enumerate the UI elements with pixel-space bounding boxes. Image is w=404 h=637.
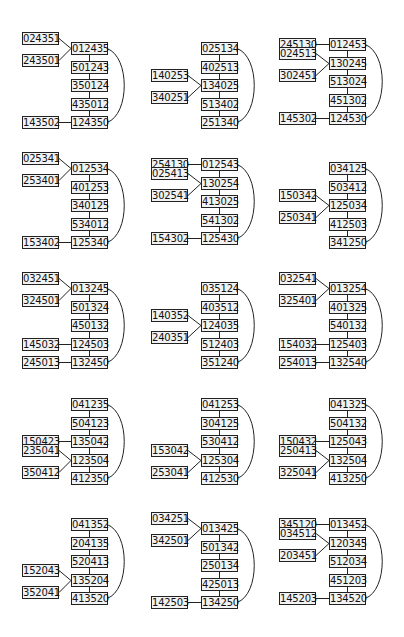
chain-node: 503412 [329, 181, 366, 194]
chain-node: 541302 [201, 214, 238, 227]
side-node: 154302 [151, 232, 188, 245]
side-node: 145302 [279, 112, 316, 125]
edge [188, 519, 201, 529]
side-node: 302451 [279, 69, 316, 82]
chain-node: 530412 [201, 435, 238, 448]
chain-node: 041235 [71, 398, 108, 411]
wrap-arc [107, 405, 124, 479]
chain-node: 540132 [329, 319, 366, 332]
wrap-arc [237, 165, 254, 239]
edge [316, 289, 329, 301]
side-node: 024351 [22, 32, 59, 45]
edge [316, 279, 329, 289]
chain-node: 401325 [329, 301, 366, 314]
edge [316, 534, 329, 544]
side-node: 024513 [279, 47, 316, 60]
edge [59, 571, 71, 581]
edge [188, 86, 201, 98]
edge [59, 169, 71, 181]
edge [316, 54, 329, 64]
side-node: 145032 [22, 338, 59, 351]
edge [59, 279, 71, 289]
side-node: 150342 [279, 189, 316, 202]
chain-node: 412350 [71, 472, 108, 485]
chain-node: 451302 [329, 94, 366, 107]
chain-node: 520413 [71, 555, 108, 568]
chain-node: 403512 [201, 301, 238, 314]
wrap-arc [365, 45, 382, 119]
edge [59, 451, 71, 461]
wrap-arc [107, 289, 124, 363]
chain-node: 251340 [201, 116, 238, 129]
chain-node: 501243 [71, 61, 108, 74]
chain-node: 304125 [201, 417, 238, 430]
side-node: 340251 [151, 91, 188, 104]
wrap-arc [237, 49, 254, 123]
edge [316, 196, 329, 206]
chain-node: 412503 [329, 218, 366, 231]
chain-node: 501342 [201, 541, 238, 554]
wrap-arc [237, 529, 254, 603]
chain-node: 012435 [71, 42, 108, 55]
chain-node: 451203 [329, 574, 366, 587]
side-node: 142503 [151, 596, 188, 609]
chain-node: 124530 [329, 112, 366, 125]
side-node: 145203 [279, 592, 316, 605]
edge [316, 451, 329, 461]
chain-node: 504123 [71, 417, 108, 430]
chain-node: 123504 [71, 454, 108, 467]
side-node: 032451 [22, 272, 59, 285]
side-node: 352041 [22, 586, 59, 599]
wrap-arc [107, 49, 124, 123]
side-node: 253041 [151, 466, 188, 479]
wrap-arc [365, 169, 382, 243]
wrap-arc [237, 289, 254, 363]
side-node: 235041 [22, 444, 59, 457]
chain-node: 125403 [329, 338, 366, 351]
chain-node: 501324 [71, 301, 108, 314]
chain-node: 350124 [71, 79, 108, 92]
chain-node: 120345 [329, 537, 366, 550]
chain-node: 013254 [329, 282, 366, 295]
chain-node: 132504 [329, 454, 366, 467]
side-node: 025341 [22, 152, 59, 165]
edge [59, 289, 71, 301]
side-node: 034251 [151, 512, 188, 525]
chain-node: 130245 [329, 57, 366, 70]
chain-node: 012543 [201, 158, 238, 171]
side-node: 342501 [151, 534, 188, 547]
chain-node: 435012 [71, 98, 108, 111]
side-node: 253401 [22, 174, 59, 187]
chain-node: 135042 [71, 435, 108, 448]
side-node: 245013 [22, 356, 59, 369]
side-node: 153042 [151, 444, 188, 457]
edge [188, 326, 201, 338]
chain-node: 041253 [201, 398, 238, 411]
wrap-arc [365, 405, 382, 479]
chain-node: 012453 [329, 38, 366, 51]
side-node: 203451 [279, 549, 316, 562]
chain-node: 034125 [329, 162, 366, 175]
side-node: 240351 [151, 331, 188, 344]
chain-node: 512034 [329, 555, 366, 568]
chain-node: 124035 [201, 319, 238, 332]
edge [188, 174, 201, 184]
edge [188, 184, 201, 196]
chain-node: 134250 [201, 596, 238, 609]
chain-node: 132540 [329, 356, 366, 369]
chain-node: 124350 [71, 116, 108, 129]
chain-node: 450132 [71, 319, 108, 332]
chain-node: 340125 [71, 199, 108, 212]
edge [316, 206, 329, 218]
edge [59, 159, 71, 169]
side-node: 254013 [279, 356, 316, 369]
chain-node: 125304 [201, 454, 238, 467]
chain-node: 204135 [71, 537, 108, 550]
chain-node: 504132 [329, 417, 366, 430]
chain-node: 025134 [201, 42, 238, 55]
chain-node: 132450 [71, 356, 108, 369]
chain-node: 413025 [201, 195, 238, 208]
side-node: 324501 [22, 294, 59, 307]
chain-node: 125340 [71, 236, 108, 249]
edge [316, 544, 329, 556]
